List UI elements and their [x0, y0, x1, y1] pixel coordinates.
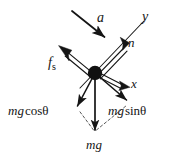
mg-cos-theta-label: mgcosθ [8, 104, 49, 117]
block-particle-dot [88, 66, 102, 80]
free-body-diagram: a y n fs x mgcosθ mgsinθ mg [0, 0, 175, 160]
static-friction-label: fs [48, 56, 56, 72]
x-axis-label: x [131, 77, 137, 90]
friction-subscript: s [52, 61, 56, 72]
diagram-canvas [0, 0, 175, 160]
mg-sin-mass-gravity: mg [108, 103, 124, 118]
acceleration-label: a [97, 11, 104, 25]
y-axis-label: y [142, 10, 148, 24]
cos-function: cos [25, 103, 42, 118]
cos-theta-symbol: θ [42, 103, 48, 118]
mg-sin-theta-label: mgsinθ [108, 104, 146, 117]
weight-label: mg [86, 138, 102, 151]
normal-force-label: n [128, 36, 135, 49]
sin-function: sin [125, 103, 140, 118]
sin-theta-symbol: θ [140, 103, 146, 118]
dashed-line-to-mg-cos-icon [79, 111, 94, 131]
mg-cos-mass-gravity: mg [8, 103, 24, 118]
